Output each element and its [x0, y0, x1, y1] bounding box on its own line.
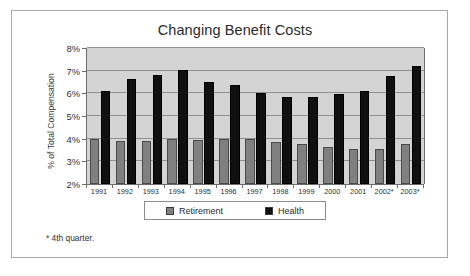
y-tick-mark	[82, 71, 86, 72]
bar-health-1992	[127, 79, 137, 184]
y-tick-label: 7%	[40, 65, 80, 76]
x-tick-label: 1995	[195, 187, 211, 196]
x-tick-mark	[190, 185, 191, 188]
x-tick-label: 1991	[91, 187, 107, 196]
plot-area	[86, 48, 424, 185]
x-tick-label: 1992	[117, 187, 133, 196]
x-tick-mark	[112, 185, 113, 188]
bar-health-1995	[204, 82, 214, 184]
bar-retirement-1991	[90, 139, 100, 184]
x-tick-mark	[293, 185, 294, 188]
bar-health-1991	[101, 91, 111, 184]
legend-swatch-retirement	[166, 207, 174, 215]
plot-right-border	[424, 48, 425, 184]
y-tick-mark	[82, 48, 86, 49]
x-tick-label: 1994	[169, 187, 185, 196]
x-tick-mark	[319, 185, 320, 188]
chart-title: Changing Benefit Costs	[0, 22, 470, 38]
y-tick-label: 2%	[40, 179, 80, 190]
legend-label: Retirement	[179, 206, 223, 216]
x-tick-label: 1993	[143, 187, 159, 196]
x-tick-mark	[267, 185, 268, 188]
y-tick-label: 8%	[40, 43, 80, 54]
bar-health-2003q4	[412, 66, 422, 184]
y-tick-label: 4%	[40, 133, 80, 144]
bar-health-1993	[153, 75, 163, 184]
bar-retirement-1996	[219, 139, 229, 184]
y-tick-mark	[82, 116, 86, 117]
chart-footnote: * 4th quarter.	[46, 233, 94, 243]
chart-legend: RetirementHealth	[144, 201, 326, 220]
x-tick-label: 1996	[220, 187, 236, 196]
y-tick-mark	[82, 161, 86, 162]
bar-health-1994	[178, 70, 188, 184]
x-tick-label: 2003*	[400, 187, 419, 196]
bar-retirement-2000	[323, 147, 333, 184]
bar-retirement-2002q4	[375, 149, 385, 184]
legend-label: Health	[278, 206, 304, 216]
bar-retirement-2001	[349, 149, 359, 184]
x-tick-label: 1999	[298, 187, 314, 196]
bar-retirement-1992	[116, 141, 126, 184]
bar-health-1998	[282, 97, 292, 184]
bar-health-2002q4	[386, 76, 396, 184]
plot-inner	[87, 48, 424, 184]
x-tick-label: 1997	[246, 187, 262, 196]
bar-health-1999	[308, 97, 318, 184]
gridline	[87, 70, 424, 71]
bar-retirement-1993	[142, 141, 152, 184]
y-tick-mark	[82, 93, 86, 94]
bar-health-2000	[334, 94, 344, 184]
bar-retirement-1997	[245, 139, 255, 184]
bar-retirement-1998	[271, 142, 281, 184]
x-tick-mark	[397, 185, 398, 188]
y-tick-mark	[82, 139, 86, 140]
bar-health-1996	[230, 85, 240, 184]
x-tick-label: 2000	[324, 187, 340, 196]
x-tick-mark	[423, 185, 424, 188]
x-tick-mark	[138, 185, 139, 188]
y-tick-label: 3%	[40, 156, 80, 167]
bar-retirement-2003q4	[401, 144, 411, 184]
x-tick-mark	[371, 185, 372, 188]
x-tick-mark	[86, 185, 87, 188]
chart-figure: Changing Benefit Costs % of Total Compen…	[0, 0, 470, 276]
y-tick-label: 5%	[40, 111, 80, 122]
bar-retirement-1994	[167, 139, 177, 184]
y-tick-label: 6%	[40, 88, 80, 99]
bar-retirement-1999	[297, 144, 307, 184]
x-tick-label: 2002*	[375, 187, 394, 196]
bar-health-2001	[360, 91, 370, 184]
x-tick-mark	[345, 185, 346, 188]
bar-retirement-1995	[193, 140, 203, 184]
x-tick-label: 2001	[350, 187, 366, 196]
legend-entry-health[interactable]: Health	[265, 206, 304, 216]
x-tick-mark	[216, 185, 217, 188]
x-tick-mark	[164, 185, 165, 188]
legend-entry-retirement[interactable]: Retirement	[166, 206, 223, 216]
x-tick-label: 1998	[272, 187, 288, 196]
legend-swatch-health	[265, 207, 273, 215]
x-tick-mark	[242, 185, 243, 188]
bar-health-1997	[256, 93, 266, 184]
gridline	[87, 47, 424, 48]
